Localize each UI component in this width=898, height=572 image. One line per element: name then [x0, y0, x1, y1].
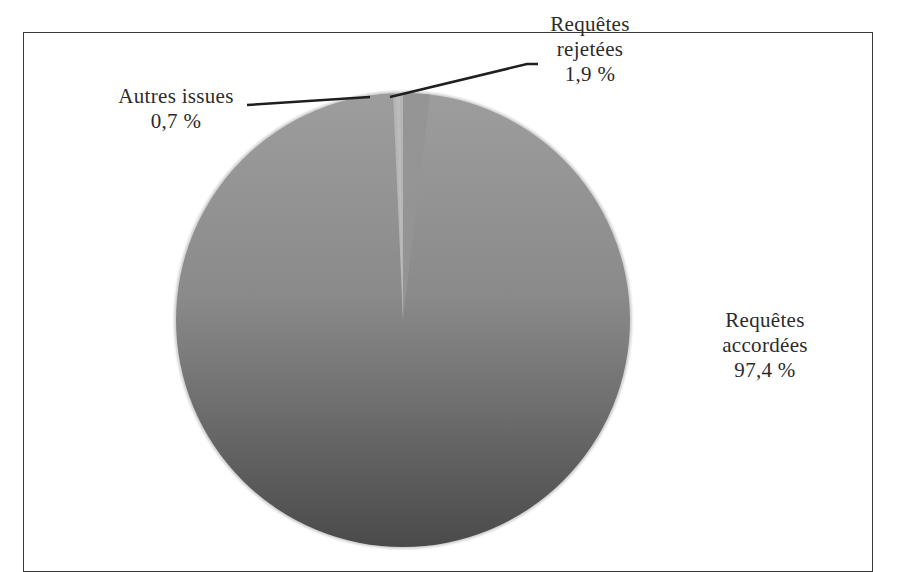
label-autres-issues: Autres issues 0,7 % — [96, 84, 256, 134]
label-accordees-line2: accordées — [690, 333, 840, 358]
label-rejetees-value: 1,9 % — [520, 62, 660, 87]
leader-line-rejetees — [390, 64, 538, 97]
label-rejetees-line2: rejetées — [520, 37, 660, 62]
label-autres-name: Autres issues — [96, 84, 256, 109]
label-accordees-value: 97,4 % — [690, 358, 840, 383]
label-requetes-rejetees: Requêtes rejetées 1,9 % — [520, 12, 660, 87]
label-rejetees-line1: Requêtes — [520, 12, 660, 37]
label-autres-value: 0,7 % — [96, 109, 256, 134]
label-accordees-line1: Requêtes — [690, 308, 840, 333]
label-requetes-accordees: Requêtes accordées 97,4 % — [690, 308, 840, 383]
